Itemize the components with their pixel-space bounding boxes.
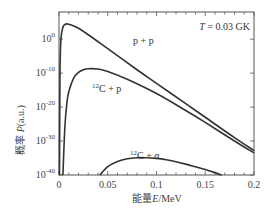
y-tick-label: 10-20 <box>36 99 56 112</box>
x-tick-label: 0 <box>57 179 62 190</box>
chart-canvas: 00.050.10.150.210010-1010-2010-3010-40 T… <box>0 0 273 216</box>
y-tick-label: 10-10 <box>36 65 56 78</box>
x-tick-label: 0.05 <box>99 179 117 190</box>
x-tick-label: 0.1 <box>150 179 163 190</box>
series-label-12c-p: 12C + p <box>92 82 121 94</box>
series-label-pp: p + p <box>133 35 154 46</box>
y-tick-label: 100 <box>42 31 56 44</box>
x-tick-label: 0.15 <box>197 179 215 190</box>
x-axis-title: 能量E/MeV <box>132 192 182 204</box>
y-tick-label: 10-40 <box>36 167 56 180</box>
y-axis-title: 概率 P(a.u.) <box>14 105 27 155</box>
y-tick-label: 10-30 <box>36 133 56 146</box>
annotation-temperature: T = 0.03 GK <box>199 21 250 32</box>
series-curve-2 <box>100 158 222 175</box>
x-tick-label: 0.2 <box>248 179 261 190</box>
series-label-12c-alpha: 12C + α <box>130 149 160 161</box>
annotation-temperature-value: = 0.03 GK <box>205 21 251 32</box>
labels: T = 0.03 GK p + p 12C + p 12C + α 能量E/Me… <box>14 21 251 204</box>
